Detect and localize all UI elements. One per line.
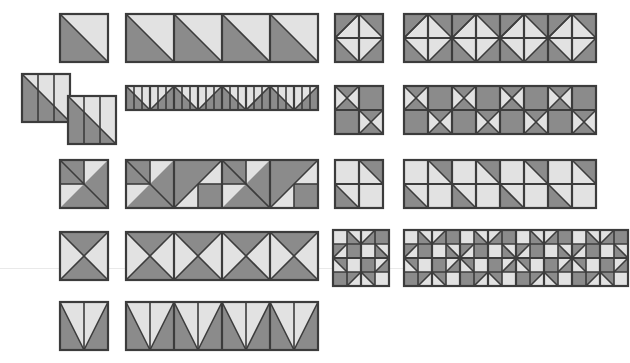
unit-cell-row-3 bbox=[58, 158, 110, 210]
block-row-1 bbox=[333, 12, 385, 64]
strip-row-3 bbox=[124, 158, 320, 210]
strip-row-5 bbox=[124, 300, 320, 352]
strip-row-4 bbox=[124, 230, 320, 282]
strip-row-2 bbox=[124, 84, 320, 112]
block-row-4 bbox=[331, 228, 391, 288]
unit-cell-row-4 bbox=[58, 230, 110, 282]
block-row-2 bbox=[333, 84, 385, 136]
unit-cell-row-2-1 bbox=[20, 72, 72, 124]
unit-cell-row-5 bbox=[58, 300, 110, 352]
block-row-3 bbox=[333, 158, 385, 210]
block-strip-row-2 bbox=[402, 84, 598, 136]
block-strip-row-1 bbox=[402, 12, 598, 64]
block-strip-row-3 bbox=[402, 158, 598, 210]
unit-cell-row-1 bbox=[58, 12, 110, 64]
strip-row-1 bbox=[124, 12, 320, 64]
block-strip-row-4 bbox=[402, 228, 630, 288]
unit-cell-row-2-2 bbox=[66, 94, 118, 146]
